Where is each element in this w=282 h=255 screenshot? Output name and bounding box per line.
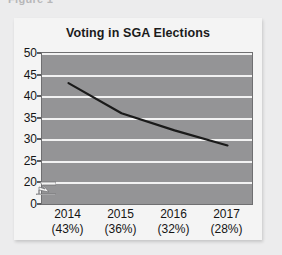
y-axis-tick-label: 25 — [14, 154, 37, 168]
y-axis-tick-label: 30 — [14, 132, 37, 146]
figure-caption-clipped: Figure 1 — [8, 0, 128, 5]
plot-area — [41, 52, 253, 205]
y-axis-tick-label: 35 — [14, 111, 37, 125]
chart-title: Voting in SGA Elections — [14, 26, 262, 40]
x-axis-tick-label: 2017(28%) — [199, 207, 255, 237]
x-axis-tick-year: 2017 — [199, 207, 255, 222]
x-axis-tick-label: 2016(32%) — [146, 207, 202, 237]
x-axis-tick-year: 2016 — [146, 207, 202, 222]
y-axis-tick-label: 50 — [14, 46, 37, 60]
x-axis-tick-percent: (28%) — [199, 222, 255, 237]
y-axis-tick-label: 40 — [14, 89, 37, 103]
figure-card: Voting in SGA Elections 020253035404550 … — [14, 18, 262, 240]
x-axis-tick-year: 2015 — [93, 207, 149, 222]
axis-break-icon — [36, 181, 56, 195]
x-axis-tick-percent: (43%) — [40, 222, 96, 237]
y-axis-tick-label: 20 — [14, 175, 37, 189]
y-axis-tick-label: 0 — [14, 197, 37, 211]
y-axis-tick-label: 45 — [14, 68, 37, 82]
x-axis-tick-label: 2014(43%) — [40, 207, 96, 237]
x-axis-tick-label: 2015(36%) — [93, 207, 149, 237]
x-axis-tick-percent: (36%) — [93, 222, 149, 237]
x-axis-tick-percent: (32%) — [146, 222, 202, 237]
x-axis-tick-year: 2014 — [40, 207, 96, 222]
series-line-voting — [42, 53, 254, 206]
